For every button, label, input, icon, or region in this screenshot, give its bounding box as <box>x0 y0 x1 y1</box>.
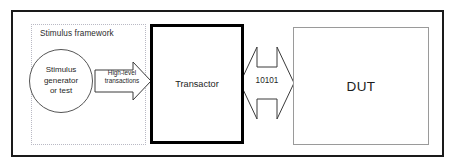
dut-label: DUT <box>347 79 376 94</box>
stimulus-generator-line-2: generator <box>44 76 78 87</box>
transactor-label: Transactor <box>175 79 219 89</box>
bus-bidirectional-arrow-icon <box>239 45 295 121</box>
stimulus-generator-line-3: or test <box>44 86 78 97</box>
stimulus-framework-label: Stimulus framework <box>40 29 140 38</box>
transactor-block: Transactor <box>150 24 244 144</box>
diagram-canvas: Stimulus framework Stimulus generator or… <box>0 0 455 168</box>
dut-block: DUT <box>293 27 429 145</box>
stimulus-generator-line-1: Stimulus <box>44 65 78 76</box>
stimulus-generator-label: Stimulus generator or test <box>44 65 78 97</box>
high-level-transactions-arrow-icon <box>93 58 153 104</box>
stimulus-generator-node: Stimulus generator or test <box>29 49 93 113</box>
